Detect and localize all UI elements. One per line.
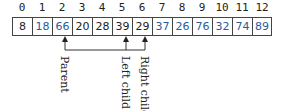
left-child-label: Left child xyxy=(119,56,132,109)
parent-label: Parent xyxy=(58,56,71,93)
right-child-label: Right child xyxy=(138,56,151,111)
